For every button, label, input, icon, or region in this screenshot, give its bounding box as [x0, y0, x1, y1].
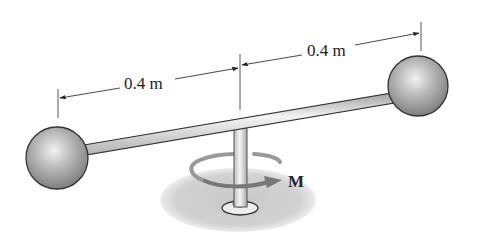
- dimension-label-left: 0.4 m: [124, 74, 163, 93]
- dumbbell-diagram: 0.4 m 0.4 m M: [0, 0, 479, 236]
- dimension-line-left-a: [60, 88, 120, 98]
- dimension-line-left-b: [175, 68, 238, 79]
- moment-label: M: [288, 172, 304, 191]
- right-sphere: [388, 56, 448, 116]
- dimension-label-right: 0.4 m: [307, 41, 346, 60]
- dimension-line-right-b: [355, 33, 419, 45]
- moment-arc-back-right: [254, 154, 280, 162]
- dimension-line-right-a: [242, 55, 302, 65]
- vertical-shaft: [234, 124, 247, 207]
- left-sphere: [26, 127, 88, 189]
